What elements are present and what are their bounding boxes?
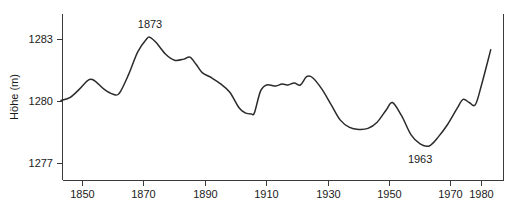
- y-tick-label-1277: 1277: [29, 157, 53, 169]
- x-tick-marks: [83, 181, 482, 187]
- x-tick-label-1970: 1970: [438, 188, 462, 200]
- line-chart: 1283 1280 1277 Höhe (m) 1850 1870 1890 1…: [0, 0, 521, 215]
- chart-canvas: 1283 1280 1277 Höhe (m) 1850 1870 1890 1…: [0, 0, 521, 215]
- x-tick-label-1870: 1870: [131, 188, 155, 200]
- x-tick-label-1910: 1910: [254, 188, 278, 200]
- y-axis-title: Höhe (m): [8, 74, 20, 120]
- x-tick-label-1850: 1850: [70, 188, 94, 200]
- y-tick-label-1283: 1283: [29, 33, 53, 45]
- x-tick-label-1930: 1930: [316, 188, 340, 200]
- peak-annotation-1873: 1873: [138, 18, 162, 30]
- trough-annotation-1963: 1963: [408, 153, 432, 165]
- water-level-line: [61, 37, 491, 147]
- figure-caption: [14, 206, 474, 215]
- y-tick-label-1280: 1280: [29, 95, 53, 107]
- x-tick-label-1890: 1890: [193, 188, 217, 200]
- x-tick-label-1950: 1950: [377, 188, 401, 200]
- x-tick-label-1980: 1980: [469, 188, 493, 200]
- y-tick-marks: [57, 40, 63, 164]
